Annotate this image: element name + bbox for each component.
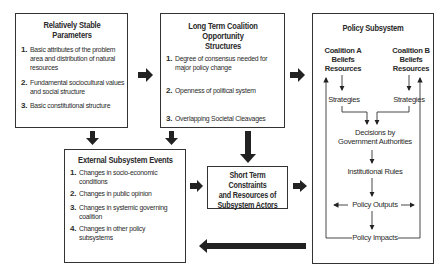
arrow-external-to-shortterm-icon xyxy=(190,180,203,192)
arrow-subsystem-to-external-icon xyxy=(199,239,306,253)
arrow-stable-to-external-icon xyxy=(86,131,99,145)
arrow-shortterm-to-subsystem-icon xyxy=(293,180,307,192)
arrow-longterm-to-subsystem-icon xyxy=(290,68,305,82)
arrow-longterm-to-external-icon xyxy=(165,131,178,145)
arrow-stable-to-longterm-icon xyxy=(138,68,153,82)
arrow-longterm-to-shortterm-icon xyxy=(240,131,256,163)
subsystem-connectors xyxy=(326,75,420,238)
thick-arrows xyxy=(86,68,307,253)
diagram-arrows xyxy=(0,0,444,277)
